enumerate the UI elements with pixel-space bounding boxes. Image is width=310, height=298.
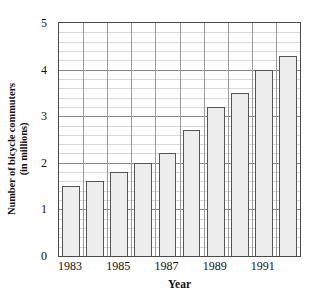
bar-1988 — [183, 130, 201, 256]
bar-1986 — [134, 163, 152, 256]
bar-1992 — [279, 56, 297, 256]
x-tick-label: 1985 — [106, 259, 130, 273]
bar-1989 — [207, 107, 225, 256]
plot-area — [58, 22, 301, 257]
bar-1990 — [231, 93, 249, 256]
x-tick-label: 1991 — [251, 259, 275, 273]
x-tick-label: 1983 — [58, 259, 82, 273]
bar-chart-figure: Number of bicycle commuters (in millions… — [0, 0, 310, 298]
bar-series — [59, 23, 300, 256]
x-axis-title: Year — [58, 277, 301, 291]
bar-1984 — [86, 181, 104, 256]
y-tick-label: 3 — [7, 110, 47, 122]
bar-1985 — [110, 172, 128, 256]
y-tick-label: 5 — [7, 17, 47, 29]
bar-1987 — [159, 153, 177, 256]
y-tick-label: 4 — [7, 64, 47, 76]
bar-1983 — [62, 186, 80, 256]
x-axis-tick-labels: 19831985198719891991 — [58, 259, 301, 277]
x-tick-label: 1987 — [154, 259, 178, 273]
x-tick-label: 1989 — [203, 259, 227, 273]
y-tick-label: 2 — [7, 157, 47, 169]
y-tick-label: 1 — [7, 203, 47, 215]
y-tick-label: 0 — [7, 250, 47, 262]
bar-1991 — [255, 70, 273, 256]
